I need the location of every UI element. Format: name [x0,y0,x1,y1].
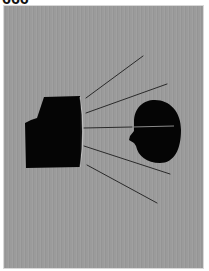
monitor-icon [25,96,83,168]
artwork-panel [4,6,203,268]
head-icon [129,100,181,163]
artwork-illustration [0,0,209,271]
ray-line-1 [86,56,143,98]
ray-line-5 [87,165,157,203]
ray-line-3 [84,127,132,128]
